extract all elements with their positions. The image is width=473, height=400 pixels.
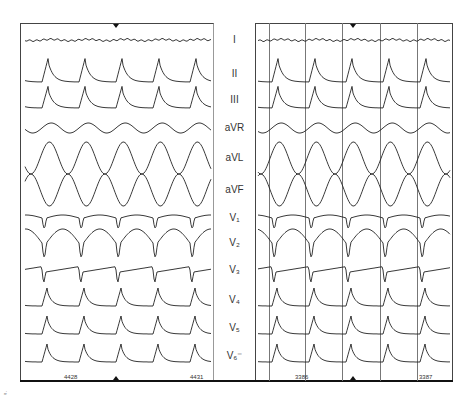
trace-left-v5 xyxy=(25,316,211,334)
trace-right-ii xyxy=(258,59,450,82)
trace-left-v6 xyxy=(25,344,211,362)
trace-left-v3 xyxy=(25,267,211,282)
lead-label-avl: aVL xyxy=(214,152,255,164)
trace-left-avr xyxy=(25,123,211,133)
lead-label-avf: aVF xyxy=(214,184,255,196)
trace-right-iii xyxy=(258,86,450,108)
trace-left-avf xyxy=(25,174,211,206)
trace-right-v1 xyxy=(258,215,450,228)
corner-mark: ᵐⁱ xyxy=(4,392,7,397)
right-top-marker-icon xyxy=(350,24,356,28)
lead-label-v4: V₄ xyxy=(214,294,255,306)
trace-left-iii xyxy=(25,86,211,108)
trace-right-avf xyxy=(258,174,450,206)
lead-label-v2: V₂ xyxy=(214,237,255,249)
trace-right-v6 xyxy=(258,344,450,362)
trace-right-v3 xyxy=(258,267,450,282)
lead-label-v5: V₅ xyxy=(214,322,255,334)
left-top-marker-icon xyxy=(113,24,119,28)
trace-right-avl xyxy=(258,142,450,174)
lead-label-column: IIIIIIaVRaVLaVFV₁V₂V₃V₄V₅V₆⁻ xyxy=(214,23,255,381)
right-tick-label-end: 3387 xyxy=(419,374,432,380)
lead-label-i: I xyxy=(214,34,255,46)
trace-left-v4 xyxy=(25,288,211,306)
lead-label-v6: V₆⁻ xyxy=(214,350,255,362)
lead-label-v3: V₃ xyxy=(214,264,255,276)
trace-left-i xyxy=(25,39,211,42)
right-bottom-marker-icon xyxy=(350,376,356,380)
trace-left-avl xyxy=(25,142,211,174)
trace-left-v1 xyxy=(25,215,211,228)
trace-right-i xyxy=(258,39,450,42)
trace-right-avr xyxy=(258,123,450,133)
lead-label-v1: V₁ xyxy=(214,212,255,224)
trace-left-ii xyxy=(25,59,211,82)
lead-label-avr: aVR xyxy=(214,122,255,134)
trace-right-v2 xyxy=(258,229,450,257)
lead-label-ii: II xyxy=(214,68,255,80)
trace-right-v5 xyxy=(258,316,450,334)
right-tick-label-start: 3386 xyxy=(295,374,308,380)
lead-label-iii: III xyxy=(214,94,255,106)
left-bottom-marker-icon xyxy=(113,376,119,380)
left-tick-label-end: 4431 xyxy=(190,374,203,380)
trace-left-v2 xyxy=(25,229,211,257)
trace-right-v4 xyxy=(258,288,450,306)
left-tick-label-start: 4428 xyxy=(64,374,77,380)
